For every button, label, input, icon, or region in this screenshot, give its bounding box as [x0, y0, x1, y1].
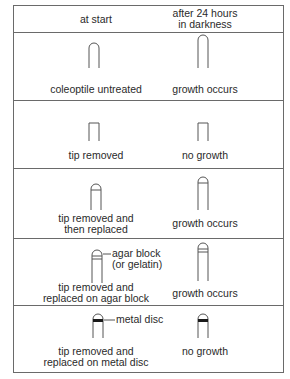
- agar-block-annotation: agar block (or gelatin): [112, 248, 162, 270]
- agar-block-pointer: [103, 253, 111, 255]
- row5-result-label: no growth: [150, 346, 260, 357]
- row-divider: [13, 100, 284, 101]
- coleoptile-untreated-icon: [88, 43, 100, 68]
- row3-start-label: tip removed and then replaced: [40, 213, 152, 235]
- row-divider: [13, 305, 284, 306]
- coleoptile-grown-icon: [197, 35, 209, 68]
- row4-start-label: tip removed and replaced on agar block: [40, 282, 152, 304]
- row2-result-label: no growth: [150, 150, 260, 161]
- row-divider: [13, 168, 284, 169]
- row1-start-label: coleoptile untreated: [40, 84, 152, 95]
- row4-result-label: growth occurs: [150, 288, 260, 299]
- row2-start-label: tip removed: [40, 150, 152, 161]
- coleoptile-agar-block-icon: [91, 250, 103, 283]
- coleoptile-tip-replaced-icon: [90, 184, 102, 210]
- coleoptile-grown-icon: [197, 177, 209, 210]
- coleoptile-grown-icon: [197, 243, 209, 281]
- row5-start-label: tip removed and replaced on metal disc: [40, 346, 152, 368]
- header-divider: [13, 32, 284, 33]
- coleoptile-metal-disc-icon: [92, 314, 104, 338]
- header-after-24-hours: after 24 hours in darkness: [150, 8, 260, 30]
- header-at-start: at start: [40, 14, 152, 25]
- coleoptile-no-growth-icon: [197, 314, 209, 338]
- coleoptile-no-growth-icon: [197, 122, 209, 141]
- metal-disc-annotation: metal disc: [116, 314, 163, 325]
- metal-disc-pointer: [104, 319, 115, 321]
- row1-result-label: growth occurs: [150, 84, 260, 95]
- row3-result-label: growth occurs: [150, 218, 260, 229]
- coleoptile-tip-removed-icon: [88, 122, 100, 141]
- row-divider: [13, 238, 284, 239]
